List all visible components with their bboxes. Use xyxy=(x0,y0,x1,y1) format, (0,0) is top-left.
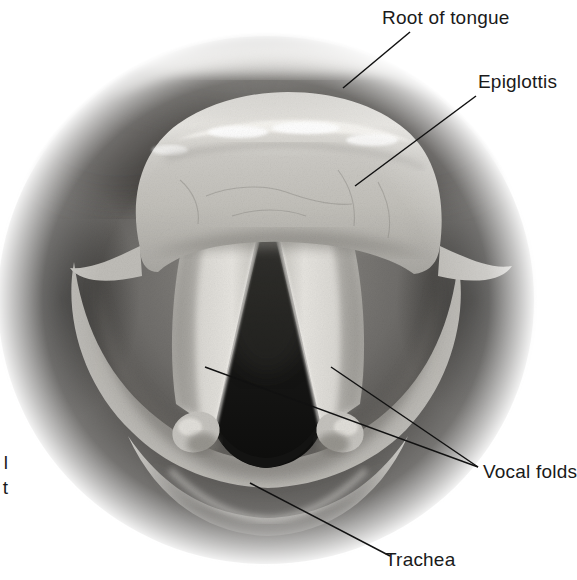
label-epiglottis: Epiglottis xyxy=(478,70,557,94)
laryngoscopic-figure: Root of tongue Epiglottis Vocal folds Tr… xyxy=(0,0,577,580)
label-cropped-line-1: l xyxy=(0,450,8,475)
label-trachea: Trachea xyxy=(385,548,455,572)
label-vocal-folds: Vocal folds xyxy=(483,460,577,484)
label-cropped-left-edge: l t xyxy=(0,450,8,500)
label-cropped-line-2: t xyxy=(0,475,8,500)
label-root-of-tongue: Root of tongue xyxy=(382,6,509,30)
